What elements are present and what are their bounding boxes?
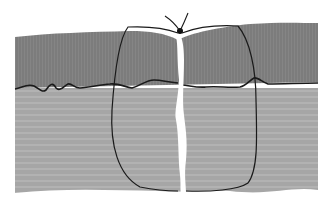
dermis-lower-layer	[15, 88, 318, 193]
suture-diagram	[0, 0, 327, 205]
suture-tail-right	[180, 13, 188, 31]
suture-tail-left	[165, 16, 180, 31]
epidermis-upper-layer	[15, 23, 318, 88]
